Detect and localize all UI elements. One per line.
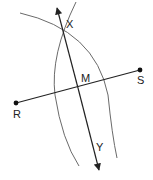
label-x: X	[66, 18, 74, 30]
label-y: Y	[96, 141, 104, 153]
label-r: R	[13, 108, 21, 120]
bisector-line-down	[78, 88, 99, 170]
label-m: M	[81, 72, 90, 84]
label-s: S	[137, 74, 144, 86]
point-r	[14, 101, 19, 106]
diagram-canvas: X M S R Y	[0, 0, 153, 180]
point-s	[138, 68, 143, 73]
arc-from-r	[20, 13, 117, 158]
